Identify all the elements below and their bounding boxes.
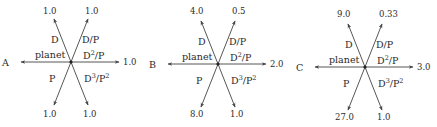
p-arrow <box>201 64 218 107</box>
d3p2-label: D3/P2 <box>84 72 110 84</box>
dp-label: D/P <box>229 36 247 47</box>
planet-label: planet <box>35 49 66 60</box>
diagram-letter: C <box>296 62 303 73</box>
diagram-a: A planet D D/P D2/P D3/P2 P 1.0 1.0 1.0 … <box>1 6 137 119</box>
d3p2-value: 1.0 <box>377 112 391 122</box>
d3p2-label: D3/P2 <box>378 77 404 89</box>
d2p-value: 2.0 <box>270 59 284 69</box>
kepler-star-diagrams: A planet D D/P D2/P D3/P2 P 1.0 1.0 1.0 … <box>0 0 437 127</box>
d-label: D <box>198 36 206 47</box>
p-label: P <box>196 75 203 86</box>
p-value: 1.0 <box>43 109 57 119</box>
dp-value: 1.0 <box>85 6 99 16</box>
d3p2-value: 1.0 <box>83 109 97 119</box>
d-label: D <box>345 39 353 50</box>
d2p-value: 1.0 <box>123 57 137 67</box>
center-dot <box>69 60 72 63</box>
diagram-c: C planet D D/P D2/P D3/P2 P 9.0 0.33 3.0… <box>296 9 431 122</box>
p-label: P <box>49 73 56 84</box>
d3p2-label: D3/P2 <box>231 74 257 86</box>
planet-label: planet <box>329 54 360 65</box>
center-dot <box>363 65 366 68</box>
planet-label: planet <box>182 51 213 62</box>
d-value: 4.0 <box>190 6 204 16</box>
p-arrow <box>54 62 71 105</box>
center-dot <box>216 62 219 65</box>
p-value: 8.0 <box>190 109 204 119</box>
d2p-value: 3.0 <box>417 62 431 72</box>
p-value: 27.0 <box>335 112 354 122</box>
dp-label: D/P <box>82 34 100 45</box>
diagram-letter: A <box>1 57 9 68</box>
d-value: 9.0 <box>337 9 351 19</box>
diagram-b: B planet D D/P D2/P D3/P2 P 4.0 0.5 2.0 … <box>149 6 284 119</box>
diagram-letter: B <box>149 59 156 70</box>
p-arrow <box>348 67 365 110</box>
dp-value: 0.33 <box>379 9 398 19</box>
d2p-label: D2/P <box>230 51 252 63</box>
d-value: 1.0 <box>43 6 57 16</box>
dp-label: D/P <box>376 39 394 50</box>
d2p-label: D2/P <box>377 54 399 66</box>
p-label: P <box>343 78 350 89</box>
d-label: D <box>51 34 59 45</box>
d2p-label: D2/P <box>83 49 105 61</box>
dp-value: 0.5 <box>232 6 246 16</box>
d3p2-value: 1.0 <box>230 109 244 119</box>
